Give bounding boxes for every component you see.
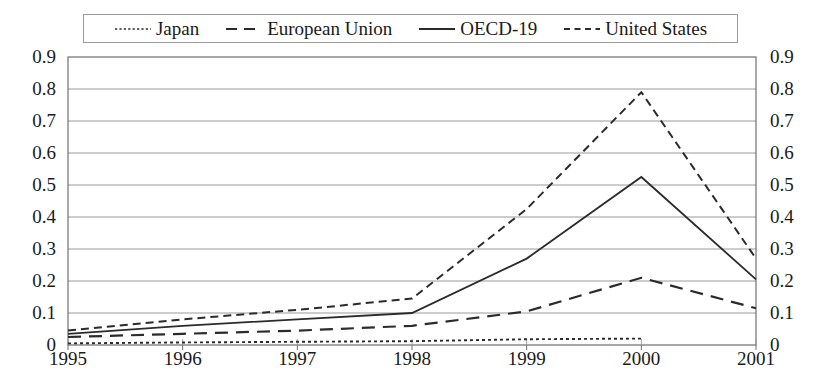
y-tick-label: 0.4 — [32, 207, 56, 226]
series-line-oecd-19 — [68, 177, 756, 334]
line-chart: Japan European Union OECD-19 — [0, 0, 823, 381]
y-tick-label: 0.6 — [32, 143, 56, 162]
y-tick-label: 0.7 — [770, 111, 794, 130]
y-tick-label: 0.1 — [32, 303, 56, 322]
x-tick-label: 2000 — [622, 349, 660, 368]
y-tick-label: 0.6 — [770, 143, 794, 162]
gridlines — [68, 89, 756, 313]
x-tick-label: 1997 — [278, 349, 316, 368]
plot-frame — [68, 57, 756, 345]
plot-border — [68, 57, 756, 345]
x-tick-label: 2001 — [737, 349, 775, 368]
y-tick-label: 0.4 — [770, 207, 794, 226]
x-tick-label: 1995 — [49, 349, 87, 368]
y-tick-label: 0.8 — [770, 79, 794, 98]
y-tick-label: 0.9 — [770, 47, 794, 66]
series-lines — [68, 92, 756, 343]
y-tick-label: 0.1 — [770, 303, 794, 322]
series-line-united-states — [68, 92, 756, 330]
y-tick-label: 0.2 — [770, 271, 794, 290]
y-tick-label: 0.3 — [770, 239, 794, 258]
x-tick-label: 1999 — [508, 349, 546, 368]
x-tick-label: 1998 — [393, 349, 431, 368]
y-tick-label: 0.2 — [32, 271, 56, 290]
plot-area — [0, 0, 823, 381]
y-tick-label: 0.8 — [32, 79, 56, 98]
y-tick-label: 0.5 — [32, 175, 56, 194]
x-tick-label: 1996 — [164, 349, 202, 368]
series-line-european-union — [68, 278, 756, 337]
series-line-japan — [68, 339, 641, 344]
y-tick-label: 0.5 — [770, 175, 794, 194]
y-axis-left: 0.90.80.70.60.50.40.30.20.10 — [0, 0, 68, 381]
y-tick-label: 0.7 — [32, 111, 56, 130]
y-tick-label: 0.3 — [32, 239, 56, 258]
x-axis-labels: 1995199619971998199920002001 — [0, 349, 823, 379]
y-tick-label: 0.9 — [32, 47, 56, 66]
y-axis-right: 0.90.80.70.60.50.40.30.20.10 — [758, 0, 823, 381]
